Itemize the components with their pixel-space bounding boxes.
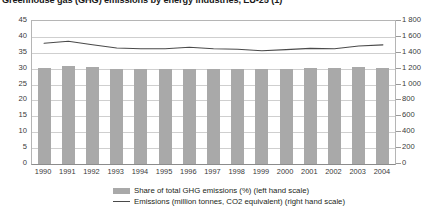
right-axis-tick: 1 800 [402,16,421,24]
x-axis-tick: 2000 [273,168,297,177]
bar [328,68,341,164]
left-axis-tick: 20 [2,95,27,103]
left-axis-tick: 15 [2,111,27,119]
legend-label-share: Share of total GHG emissions (%) (left h… [134,186,309,195]
bar [86,67,99,164]
gridline [32,53,395,54]
x-axis-tick: 1999 [249,168,273,177]
right-axis-tickmark [396,147,401,148]
right-axis-tick: 600 [402,111,415,119]
emissions-line-path [44,41,383,51]
left-axis-tick: 45 [2,16,27,24]
x-axis-tick: 2003 [346,168,370,177]
right-axis-tickmark [396,68,401,69]
x-axis-tick: 1997 [200,168,224,177]
right-axis-tick: 800 [402,95,415,103]
x-axis-tick: 1996 [176,168,200,177]
x-axis-tick-labels: 1990199119921993199419951996199719981999… [31,168,396,180]
right-axis-tickmark [396,99,401,100]
left-axis-tick: 25 [2,80,27,88]
bar [183,69,196,164]
bar [62,66,75,164]
x-axis-tick: 2002 [321,168,345,177]
gridline [32,37,395,38]
left-axis-tick: 10 [2,127,27,135]
chart-container: Greenhouse gas (GHG) emissions by energy… [0,0,444,211]
legend-label-emissions: Emissions (million tonnes, CO2 equivalen… [134,197,345,206]
plot-area [31,20,396,165]
right-axis-tick: 1 200 [402,64,421,72]
right-axis-tickmark [396,84,401,85]
right-axis-tick: 1 600 [402,32,421,40]
legend-item-share: Share of total GHG emissions (%) (left h… [113,185,443,196]
bar [304,68,317,164]
bar [255,69,268,164]
bar [352,67,365,164]
left-axis-tick: 35 [2,48,27,56]
right-axis-tickmark [396,163,401,164]
right-axis-tickmark [396,20,401,21]
right-axis-tick-labels: 02004006008001 0001 2001 4001 6001 800 [402,20,442,165]
chart-legend: Share of total GHG emissions (%) (left h… [113,185,443,207]
chart-title: Greenhouse gas (GHG) emissions by energy… [2,0,432,5]
right-axis-tick: 1 400 [402,48,421,56]
x-axis-tick: 1990 [31,168,55,177]
left-axis-tick: 30 [2,64,27,72]
bar [376,68,389,164]
right-axis-tick: 200 [402,143,415,151]
line-swatch-icon [113,201,130,202]
left-axis-tick: 40 [2,32,27,40]
legend-item-emissions: Emissions (million tonnes, CO2 equivalen… [113,196,443,207]
right-axis-tickmark [396,115,401,116]
left-axis-tick: 5 [2,143,27,151]
x-axis-tick: 1992 [79,168,103,177]
right-axis-tick: 400 [402,127,415,135]
left-axis-tick: 0 [2,159,27,167]
bar [280,69,293,164]
x-axis-tick: 1994 [128,168,152,177]
x-axis-tick: 1993 [104,168,128,177]
left-axis-tick-labels: 051015202530354045 [2,20,27,165]
right-axis-tickmark [396,131,401,132]
x-axis-tick: 1995 [152,168,176,177]
bar-swatch-icon [113,188,130,194]
bar [159,69,172,164]
right-axis-tickmark [396,36,401,37]
x-axis-tick: 2004 [370,168,394,177]
bar [207,69,220,164]
x-axis-tick: 1991 [55,168,79,177]
x-axis-tick: 1998 [225,168,249,177]
bar [38,68,51,164]
right-axis-tick: 1 000 [402,80,421,88]
bar [231,69,244,164]
x-axis-tick: 2001 [297,168,321,177]
bar [110,69,123,164]
right-axis-tickmark [396,52,401,53]
bar [134,69,147,164]
right-axis-tick: 0 [402,159,406,167]
